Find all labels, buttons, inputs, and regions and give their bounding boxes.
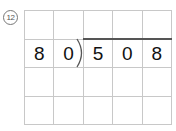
work-cell-r4c4[interactable] [113, 97, 142, 126]
long-division-grid: 8 0 5 0 8 [24, 10, 172, 125]
quotient-cell-3[interactable] [84, 11, 113, 40]
division-overline [83, 38, 172, 40]
work-cell-r3c4[interactable] [113, 68, 142, 97]
work-cell-r3c2[interactable] [54, 68, 83, 97]
work-cell-r3c5[interactable] [143, 68, 172, 97]
quotient-cell-5[interactable] [143, 11, 172, 40]
work-cell-r4c3[interactable] [84, 97, 113, 126]
quotient-cell-2[interactable] [54, 11, 83, 40]
work-cell-r3c1[interactable] [25, 68, 54, 97]
dividend-digit-2: 0 [113, 40, 142, 69]
work-cell-r4c2[interactable] [54, 97, 83, 126]
work-cell-r3c3[interactable] [84, 68, 113, 97]
division-bracket-icon [75, 38, 85, 68]
dividend-digit-1: 5 [84, 40, 113, 69]
problem-number: 12 [3, 10, 18, 25]
work-cell-r4c5[interactable] [143, 97, 172, 126]
dividend-digit-3: 8 [143, 40, 172, 69]
work-cell-r4c1[interactable] [25, 97, 54, 126]
quotient-cell-1[interactable] [25, 11, 54, 40]
quotient-cell-4[interactable] [113, 11, 142, 40]
divisor-digit-1: 8 [25, 40, 54, 69]
